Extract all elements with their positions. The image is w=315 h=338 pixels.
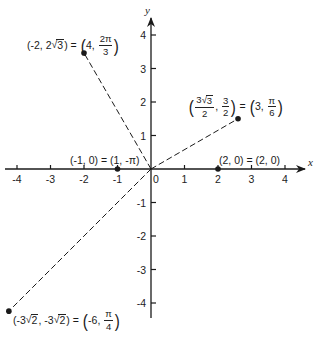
x-tick-label: -2 bbox=[79, 173, 88, 185]
y-tick-label: -1 bbox=[137, 197, 146, 209]
x-tick-label: -1 bbox=[113, 173, 122, 185]
point-p3 bbox=[115, 166, 121, 172]
x-axis-label: x bbox=[307, 156, 313, 168]
x-tick-label: 1 bbox=[182, 173, 188, 185]
point-label-p4: (2, 0) = (2, 0) bbox=[219, 155, 280, 166]
y-axis-label: y bbox=[144, 4, 150, 16]
point-p5 bbox=[6, 308, 12, 314]
dashed-rays bbox=[9, 53, 238, 311]
y-tick-label: 4 bbox=[140, 29, 146, 41]
y-tick-label: 2 bbox=[140, 96, 146, 108]
x-tick-label: 3 bbox=[249, 173, 255, 185]
x-tick-label: -3 bbox=[46, 173, 55, 185]
point-p4 bbox=[215, 166, 221, 172]
y-tick-label: -2 bbox=[137, 230, 146, 242]
y-tick-label: -4 bbox=[137, 297, 146, 309]
x-tick-label: 0 bbox=[153, 173, 159, 185]
point-label-p1: (-2, 2 √3) = (4, 2π3 ) bbox=[27, 34, 120, 56]
y-tick-label: 1 bbox=[140, 130, 146, 142]
y-tick-label: 3 bbox=[140, 63, 146, 75]
dashed-ray-p5 bbox=[9, 169, 151, 311]
point-label-p2: ( 3√32, 32 ) = (3, π6 ) bbox=[188, 95, 284, 118]
point-label-p3: (-1, 0) = (1, -π) bbox=[70, 155, 139, 166]
plotted-points bbox=[6, 50, 241, 314]
point-label-p5: (-3√2, -3√2) = (-6, π4 ) bbox=[13, 309, 120, 331]
x-tick-label: -4 bbox=[12, 173, 21, 185]
x-tick-label: 2 bbox=[215, 173, 221, 185]
y-tick-label: -3 bbox=[137, 264, 146, 276]
x-tick-label: 4 bbox=[282, 173, 288, 185]
